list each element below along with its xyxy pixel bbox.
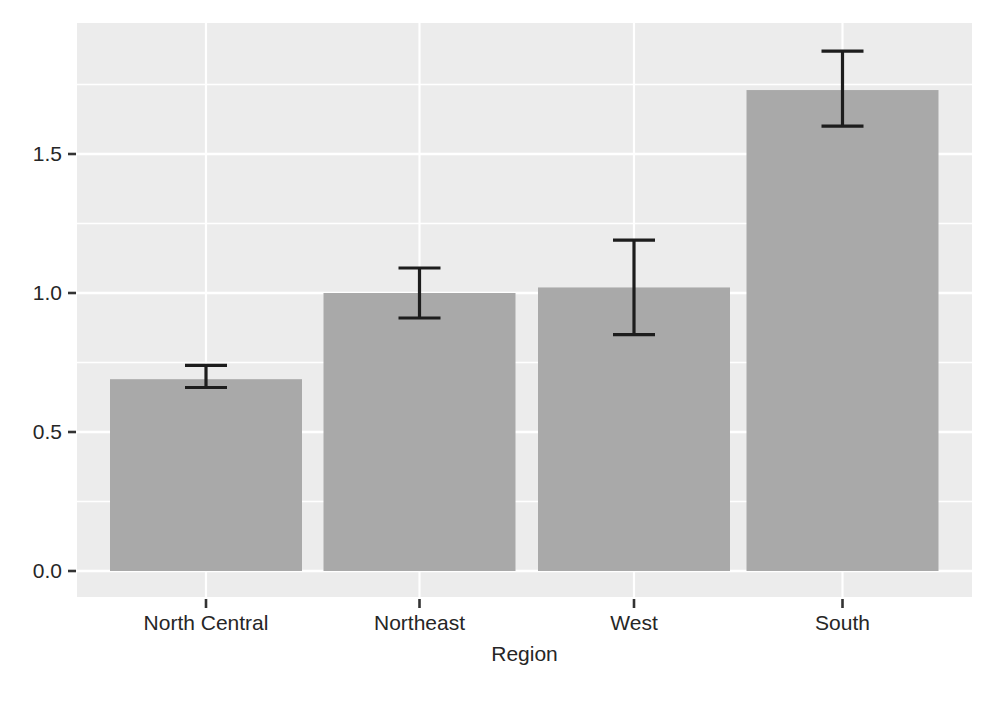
y-tick-label: 0.5 <box>33 420 62 443</box>
x-tick-label: Northeast <box>374 611 465 634</box>
y-tick-label: 1.0 <box>33 281 62 304</box>
bar <box>747 90 939 571</box>
bar-chart-figure: 0.00.51.01.5North CentralNortheastWestSo… <box>0 0 998 701</box>
bar <box>110 379 302 571</box>
bar-chart: 0.00.51.01.5North CentralNortheastWestSo… <box>0 0 998 701</box>
x-tick-label: West <box>610 611 658 634</box>
x-axis-title: Region <box>491 642 558 665</box>
bar <box>324 293 516 571</box>
y-tick-label: 0.0 <box>33 559 62 582</box>
x-tick-label: South <box>815 611 870 634</box>
y-tick-label: 1.5 <box>33 142 62 165</box>
x-tick-label: North Central <box>144 611 269 634</box>
